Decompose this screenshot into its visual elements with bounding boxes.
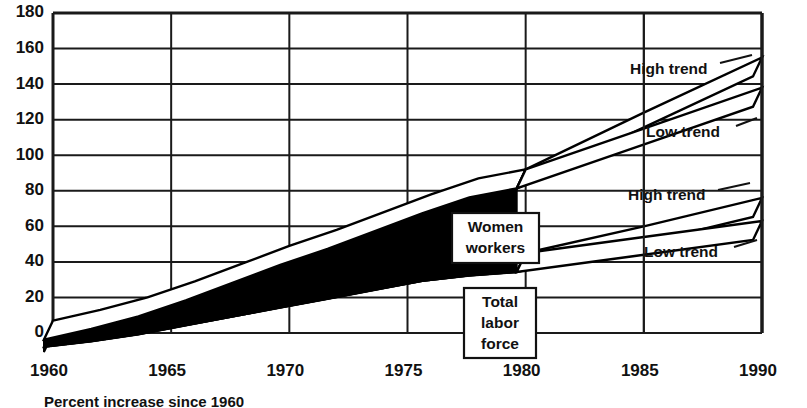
y-tick-0: 0 xyxy=(35,322,44,341)
labor-force-area-chart: 020406080100120140160180 196019651970197… xyxy=(0,0,807,408)
callout-women-workers-line2: workers xyxy=(465,239,525,256)
y-tick-100: 100 xyxy=(16,145,44,164)
label-low-trend-upper: Low trend xyxy=(646,123,720,140)
y-tick-120: 120 xyxy=(16,109,44,128)
x-axis-tick-labels: 1960196519701975198019851990 xyxy=(30,361,777,380)
leader-line-2 xyxy=(718,183,750,190)
x-tick-1985: 1985 xyxy=(621,361,659,380)
projection-total-labor-force-low-trend xyxy=(517,88,762,189)
y-tick-160: 160 xyxy=(16,38,44,57)
y-tick-20: 20 xyxy=(25,287,44,306)
y-tick-80: 80 xyxy=(25,180,44,199)
label-high-trend-lower: High trend xyxy=(628,186,706,203)
y-tick-40: 40 xyxy=(25,251,44,270)
y-axis-tick-labels: 020406080100120140160180 xyxy=(16,2,44,341)
leader-line-0 xyxy=(720,55,752,63)
x-tick-1980: 1980 xyxy=(503,361,541,380)
chart-caption: Percent increase since 1960 xyxy=(44,392,244,408)
callout-total-line2: labor xyxy=(481,314,519,331)
x-tick-1970: 1970 xyxy=(266,361,304,380)
callout-total-labor-force: Total labor force xyxy=(464,288,536,358)
y-tick-180: 180 xyxy=(16,2,44,21)
y-tick-60: 60 xyxy=(25,216,44,235)
callout-women-workers: Women workers xyxy=(452,213,539,263)
callout-total-line1: Total xyxy=(482,293,518,310)
y-tick-140: 140 xyxy=(16,74,44,93)
chart-root: 020406080100120140160180 196019651970197… xyxy=(0,0,807,408)
x-tick-1965: 1965 xyxy=(148,361,186,380)
callout-total-line3: force xyxy=(481,335,519,352)
x-tick-1990: 1990 xyxy=(739,361,777,380)
label-high-trend-upper: High trend xyxy=(630,60,708,77)
label-low-trend-lower: Low trend xyxy=(644,243,718,260)
callout-women-workers-line1: Women xyxy=(468,218,524,235)
x-tick-1975: 1975 xyxy=(385,361,423,380)
x-tick-1960: 1960 xyxy=(30,361,68,380)
